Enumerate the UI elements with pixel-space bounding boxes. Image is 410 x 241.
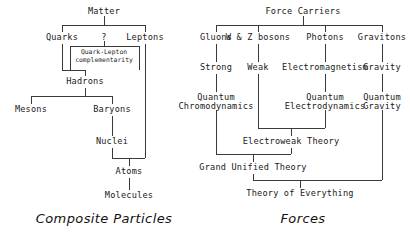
node-electromagnetism[interactable]: Electromagnetism [282,63,368,73]
node-w-z-bosons[interactable]: W & Z bosons [226,33,291,43]
node-theory-of-everything[interactable]: Theory of Everything [246,189,353,199]
node-question-mark[interactable]: ? [101,33,106,43]
node-gravitons[interactable]: Gravitons [358,33,406,43]
node-quantum-gravity-line2[interactable]: Gravity [363,102,401,112]
node-strong[interactable]: Strong [200,63,232,73]
node-quark-lepton-complementarity-line2[interactable]: complementarity [75,57,133,65]
node-quarks[interactable]: Quarks [46,33,78,43]
node-nuclei[interactable]: Nuclei [96,137,128,147]
node-quantum-electrodynamics-line2[interactable]: Electrodynamics [285,102,366,112]
node-matter[interactable]: Matter [88,7,120,17]
node-leptons[interactable]: Leptons [126,33,164,43]
caption-composite-particles: Composite Particles [36,211,173,226]
node-force-carriers[interactable]: Force Carriers [265,7,340,17]
node-molecules[interactable]: Molecules [105,191,153,201]
caption-forces: Forces [280,211,325,226]
node-mesons[interactable]: Mesons [15,105,47,115]
node-electroweak-theory[interactable]: Electroweak Theory [243,137,340,147]
node-grand-unified-theory[interactable]: Grand Unified Theory [199,163,306,173]
node-quantum-chromodynamics-line2[interactable]: Chromodynamics [178,102,253,112]
node-gravity[interactable]: Gravity [363,63,401,73]
node-hadrons[interactable]: Hadrons [66,77,104,87]
node-photons[interactable]: Photons [306,33,344,43]
node-baryons[interactable]: Baryons [93,105,131,115]
node-atoms[interactable]: Atoms [116,167,143,177]
diagram-canvas: Matter Quarks ? Leptons Quark-Lepton com… [0,0,410,241]
node-weak[interactable]: Weak [247,63,269,73]
